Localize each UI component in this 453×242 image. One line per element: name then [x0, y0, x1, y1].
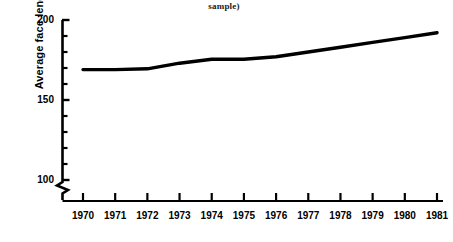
x-tick-label: 1981 — [417, 210, 453, 221]
x-axis-tick-labels: 1970197119721973197419751976197719781979… — [0, 210, 448, 226]
y-axis-break-icon — [57, 180, 68, 200]
x-axis-ticks — [83, 193, 437, 201]
data-series-line — [83, 33, 437, 70]
